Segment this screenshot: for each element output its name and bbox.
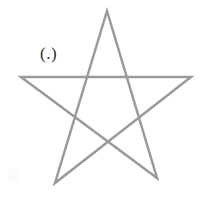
figure-background — [0, 0, 208, 210]
paper-smudge-artifact — [8, 168, 20, 182]
figure-caption-label: (.) — [40, 44, 57, 64]
pentagram-figure — [0, 0, 208, 210]
figure-canvas: (.) — [0, 0, 208, 210]
